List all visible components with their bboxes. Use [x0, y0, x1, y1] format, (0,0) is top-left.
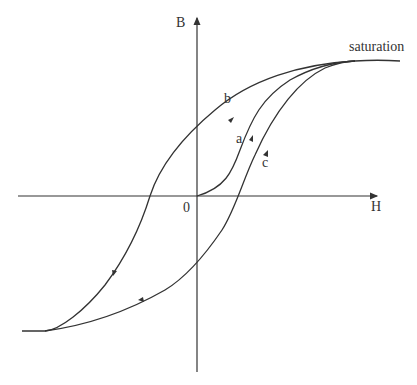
arrow-icon-b [228, 117, 234, 123]
arrow-icon-ascending-lower [138, 297, 144, 302]
arrow-icon-a [249, 135, 253, 142]
origin-label: 0 [183, 200, 190, 215]
saturation-label: saturation [349, 39, 404, 54]
curve-c-label: c [262, 155, 268, 170]
curve-a-label: a [236, 131, 243, 146]
h-axis-label: H [371, 199, 381, 214]
curve-a-initial-magnetization [197, 61, 355, 196]
curve-b-label: b [224, 91, 231, 106]
hysteresis-diagram: B H 0 saturation a b c [0, 0, 417, 385]
b-axis-label: B [176, 15, 185, 30]
